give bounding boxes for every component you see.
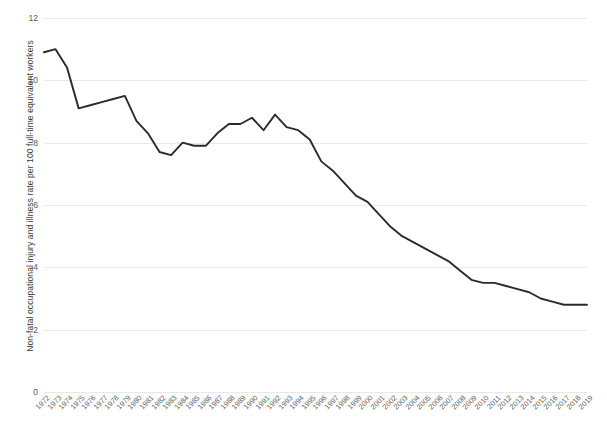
- y-tick-label-0: 0: [10, 388, 38, 397]
- y-tick-label-12: 12: [10, 14, 38, 23]
- y-tick-label-4: 4: [10, 263, 38, 272]
- x-axis-ticks: 1972197319741975197619771978197919801981…: [44, 394, 587, 425]
- series-line-injury-illness-rate: [44, 18, 587, 392]
- series-polyline: [44, 49, 587, 305]
- chart-container: Non-fatal occupational injury and illnes…: [0, 0, 607, 425]
- plot-area: 024681012: [44, 18, 587, 392]
- y-tick-label-10: 10: [10, 76, 38, 85]
- y-tick-label-6: 6: [10, 201, 38, 210]
- y-tick-label-8: 8: [10, 138, 38, 147]
- y-tick-label-2: 2: [10, 325, 38, 334]
